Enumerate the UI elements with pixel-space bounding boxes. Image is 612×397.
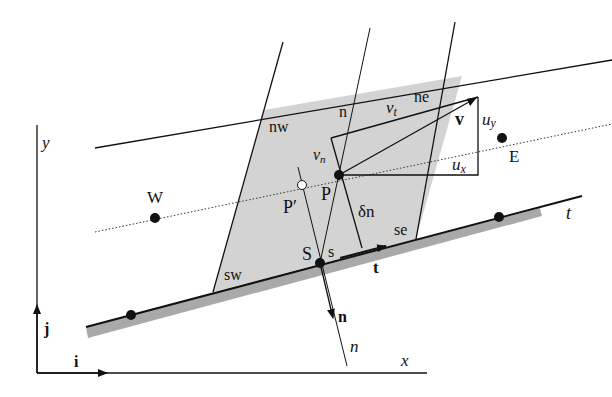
label-S: S: [302, 244, 312, 264]
label-v-vector: v: [455, 109, 464, 129]
label-P: P: [321, 184, 331, 204]
label-n-face: n: [339, 103, 347, 120]
label-axis-y: y: [40, 133, 50, 152]
label-E: E: [509, 147, 519, 166]
label-s-face: s: [328, 243, 334, 260]
label-u-y: uy: [482, 110, 497, 130]
wall-node-left: [126, 310, 136, 320]
label-sw: sw: [224, 266, 242, 283]
label-n-axis: n: [350, 337, 359, 356]
label-t-vector: t: [373, 258, 379, 277]
node-P: [334, 170, 344, 180]
label-se: se: [394, 221, 407, 238]
label-unit-j: j: [43, 320, 49, 338]
label-t-axis: t: [566, 203, 572, 223]
node-W: [150, 213, 160, 223]
label-u-x: ux: [452, 155, 467, 176]
label-nw: nw: [269, 118, 289, 135]
diagram-canvas: y x j i W E nw ne sw se n s P P′ S δn vt…: [0, 0, 612, 397]
node-S: [315, 258, 325, 268]
label-delta-n: δn: [358, 202, 375, 221]
label-ne: ne: [414, 88, 429, 105]
node-E: [497, 133, 507, 143]
label-P-prime: P′: [283, 197, 297, 217]
label-W: W: [147, 188, 164, 207]
label-n-vector: n: [338, 308, 347, 325]
label-unit-i: i: [74, 353, 79, 370]
label-axis-x: x: [400, 351, 409, 370]
node-P-prime: [298, 181, 307, 190]
wall-node-right: [494, 212, 504, 222]
